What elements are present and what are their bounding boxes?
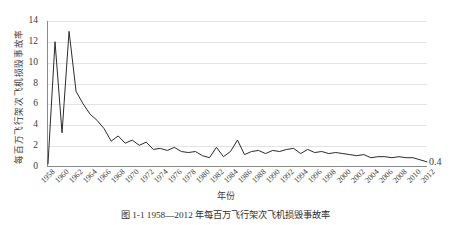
end-value-annotation: 0.4: [429, 157, 442, 167]
y-tick-label: 2: [33, 141, 38, 151]
x-tick-label: 2012: [420, 168, 437, 185]
x-axis-title: 年份: [0, 192, 451, 201]
y-tick-label: 12: [29, 37, 39, 47]
line-series: [48, 21, 427, 166]
y-tick-label: 10: [29, 58, 39, 68]
y-tick-label: 4: [33, 121, 38, 131]
figure-caption: 图 1-1 1958—2012 年每百万飞行架次飞机损毁事故率: [0, 210, 451, 221]
plot-area: [47, 21, 427, 167]
series-polyline: [48, 31, 427, 164]
y-tick-label: 6: [33, 100, 38, 110]
y-axis-title: 每百万飞行架次飞机损毁事故率: [15, 21, 24, 171]
y-tick-label: 0: [33, 162, 38, 172]
y-tick-label: 14: [29, 16, 39, 26]
y-tick-label: 8: [33, 79, 38, 89]
figure-chart-accident-rate: 02468101214 每百万飞行架次飞机损毁事故率 1958196019621…: [0, 0, 451, 225]
